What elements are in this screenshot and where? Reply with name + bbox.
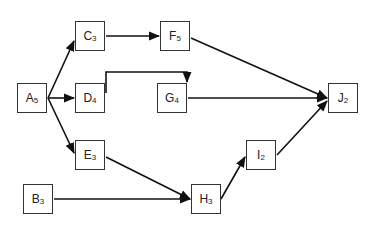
node-g: G4	[157, 83, 187, 113]
node-g-label: G	[165, 91, 174, 105]
node-f-label: F	[169, 29, 176, 43]
node-b: B3	[23, 184, 53, 214]
node-f: F5	[160, 21, 190, 51]
node-j: J2	[328, 83, 358, 113]
node-f-duration: 5	[176, 34, 180, 43]
node-g-duration: 4	[174, 96, 178, 105]
node-e: E3	[75, 140, 105, 170]
node-a: A5	[17, 83, 47, 113]
edge-a-e	[48, 98, 74, 153]
node-a-duration: 5	[34, 96, 38, 105]
node-b-label: B	[32, 192, 40, 206]
edge-f-j	[191, 38, 327, 98]
node-e-duration: 3	[92, 153, 96, 162]
node-a-label: A	[26, 91, 34, 105]
edge-e-h	[106, 157, 190, 199]
node-d-duration: 4	[92, 96, 96, 105]
edge-a-c	[48, 41, 74, 98]
node-d: D4	[75, 83, 105, 113]
node-i: I2	[246, 140, 276, 170]
node-h-duration: 3	[208, 197, 212, 206]
node-c: C3	[75, 21, 105, 51]
node-e-label: E	[84, 148, 92, 162]
network-diagram: A5 C3 D4 E3 B3 F5 G4 H3 I2 J2	[0, 0, 376, 227]
edge-h-i	[221, 157, 245, 199]
node-h-label: H	[199, 192, 208, 206]
node-d-label: D	[83, 91, 92, 105]
node-c-label: C	[83, 29, 92, 43]
node-h: H3	[191, 184, 221, 214]
node-c-duration: 3	[92, 34, 96, 43]
node-i-duration: 2	[260, 153, 264, 162]
edge-i-j	[277, 101, 327, 155]
node-b-duration: 3	[40, 197, 44, 206]
node-j-duration: 2	[344, 96, 348, 105]
